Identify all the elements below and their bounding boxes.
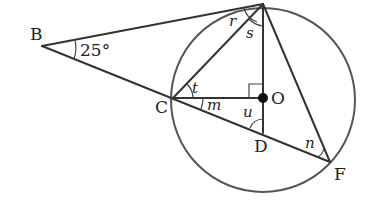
segment-bf (42, 46, 330, 162)
geometry-diagram: B C O D F 25° r s t m u n (0, 0, 377, 203)
angle-label-r: r (229, 12, 237, 30)
angle-arc-n (318, 148, 324, 157)
label-f: F (334, 164, 346, 184)
angle-label-t: t (192, 79, 199, 97)
angle-label-b: 25° (80, 40, 110, 60)
center-dot (258, 93, 268, 103)
angle-arc-m (201, 98, 203, 109)
angle-label-u: u (243, 103, 253, 121)
label-c: C (155, 97, 168, 117)
label-b: B (30, 24, 43, 44)
label-o: O (271, 88, 285, 108)
angle-label-m: m (207, 96, 221, 114)
angle-arc-b (74, 40, 76, 59)
angle-label-n: n (305, 134, 315, 152)
angle-label-s: s (246, 24, 254, 42)
label-d: D (254, 136, 268, 156)
